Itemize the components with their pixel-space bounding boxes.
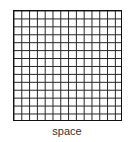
grid-square	[13, 10, 122, 121]
grid-caption: space	[0, 125, 134, 137]
